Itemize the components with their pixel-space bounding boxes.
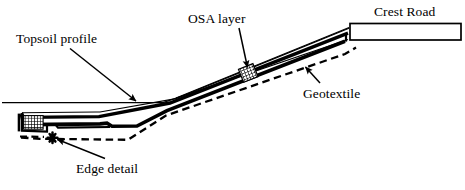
osa-leader	[239, 28, 248, 68]
edge-detail-star-marker	[48, 133, 58, 143]
toe-hatch-marker	[24, 116, 43, 130]
label-geotextile: Geotextile	[303, 86, 360, 101]
geotextile-leader	[306, 67, 321, 83]
slope-cross-section-svg	[0, 0, 465, 190]
label-osa-layer: OSA layer	[188, 11, 246, 26]
label-topsoil-profile: Topsoil profile	[16, 31, 97, 46]
label-edge-detail: Edge detail	[76, 161, 138, 176]
topsoil-leader	[70, 49, 136, 102]
figure-canvas: Topsoil profile OSA layer Crest Road Geo…	[0, 0, 465, 190]
label-crest-road: Crest Road	[374, 4, 435, 19]
edge-detail-leader	[58, 140, 106, 159]
crest-road-box	[350, 24, 461, 41]
